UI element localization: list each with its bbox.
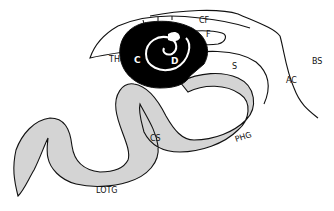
temporal-horn	[90, 26, 124, 58]
label-cf: CF	[199, 16, 210, 25]
hippocampus-diagram: CF F TH C D S AC BS CS PHG LOTG	[0, 0, 334, 211]
label-cs: CS	[150, 134, 161, 143]
label-f: F	[206, 30, 211, 39]
cortical-band	[14, 73, 254, 196]
label-bs: BS	[312, 57, 322, 66]
label-c: C	[134, 55, 141, 65]
label-ac: AC	[286, 76, 297, 85]
label-th: TH	[108, 55, 120, 64]
label-s: S	[232, 62, 237, 71]
label-d: D	[171, 56, 178, 66]
label-phg: PHG	[234, 130, 253, 144]
label-lotg: LOTG	[96, 186, 118, 195]
